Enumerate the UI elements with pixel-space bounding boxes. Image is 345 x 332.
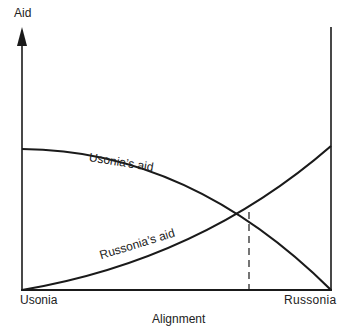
y-axis-label: Aid — [14, 6, 31, 20]
aid-alignment-diagram — [0, 0, 345, 332]
y-axis-arrow-icon — [17, 27, 27, 46]
russonia-aid-curve — [22, 146, 331, 290]
usonia-aid-curve — [22, 149, 331, 290]
x-axis-label: Alignment — [152, 312, 205, 326]
x-axis-left-end-label: Usonia — [20, 293, 57, 307]
x-axis-right-end-label: Russonia — [284, 293, 336, 307]
